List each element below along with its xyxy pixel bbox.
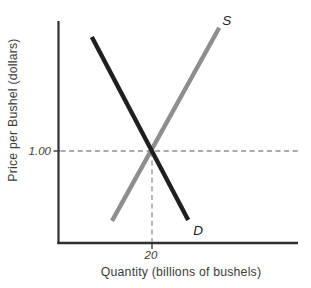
supply-curve bbox=[112, 28, 219, 221]
y-axis-label: Price per Bushel (dollars) bbox=[6, 38, 20, 181]
demand-curve-label: D bbox=[193, 223, 203, 238]
supply-curve-label: S bbox=[222, 13, 231, 28]
x-axis-label: Quantity (billions of bushels) bbox=[101, 265, 261, 279]
price-tick-label: 1.00 bbox=[29, 145, 52, 157]
supply-demand-figure: S D 1.00 20 Quantity (billions of bushel… bbox=[0, 0, 311, 288]
demand-curve bbox=[92, 37, 188, 220]
chart-canvas: S D 1.00 20 Quantity (billions of bushel… bbox=[0, 0, 311, 288]
quantity-tick-label: 20 bbox=[144, 249, 158, 261]
